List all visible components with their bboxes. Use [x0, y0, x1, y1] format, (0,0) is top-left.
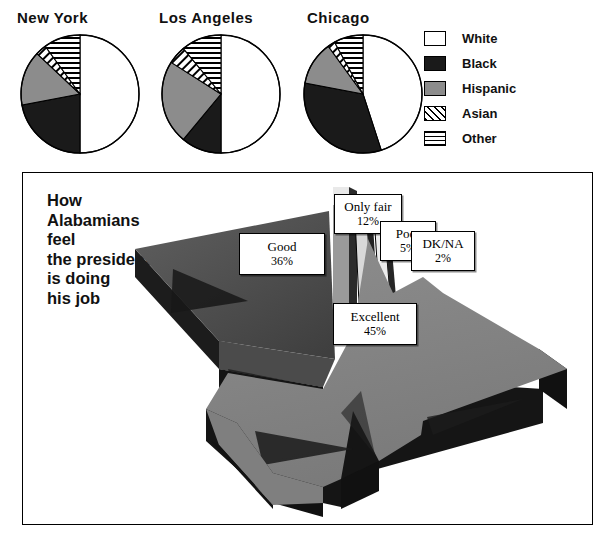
pie-title-new-york: New York [17, 9, 88, 26]
callout-name: DK/NA [412, 236, 474, 251]
callout-good: Good 36% [239, 233, 325, 275]
legend-swatch-hispanic-icon [424, 81, 446, 96]
president-job-approval-panel: How Alabamians feel the president is doi… [22, 172, 593, 525]
legend-item-hispanic: Hispanic [424, 76, 516, 101]
legend: White Black Hispanic Asian Other [424, 26, 516, 151]
legend-swatch-other-icon [424, 131, 446, 146]
pie-chart-los-angeles [159, 32, 283, 156]
legend-swatch-white-icon [424, 31, 446, 46]
legend-label: Asian [462, 106, 497, 121]
pie-slice-white [221, 35, 280, 153]
legend-swatch-black-icon [424, 56, 446, 71]
pie-title-los-angeles: Los Angeles [159, 9, 253, 26]
legend-item-white: White [424, 26, 516, 51]
legend-label: Other [462, 131, 497, 146]
exploded-3d-pie-chart [23, 173, 591, 523]
legend-label: Black [462, 56, 497, 71]
legend-item-other: Other [424, 126, 516, 151]
legend-item-asian: Asian [424, 101, 516, 126]
pie-chart-new-york [18, 32, 142, 156]
callout-name: Only fair [335, 199, 401, 214]
callout-name: Excellent [334, 309, 416, 324]
callout-excellent: Excellent 45% [333, 303, 417, 345]
callout-value: 2% [412, 251, 474, 265]
callout-value: 45% [334, 324, 416, 338]
legend-item-black: Black [424, 51, 516, 76]
callout-name: Good [240, 239, 324, 254]
pie-slice-white [80, 35, 139, 153]
legend-label: White [462, 31, 497, 46]
pie-title-chicago: Chicago [307, 9, 370, 26]
legend-swatch-asian-icon [424, 106, 446, 121]
callout-dkna: DK/NA 2% [411, 231, 475, 271]
pie-chart-chicago [301, 32, 425, 156]
legend-label: Hispanic [462, 81, 516, 96]
callout-value: 36% [240, 254, 324, 268]
